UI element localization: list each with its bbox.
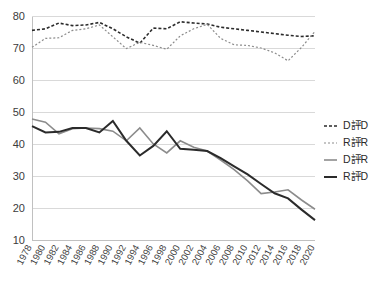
legend-label: D評R	[343, 153, 369, 165]
legend-label: R評D	[343, 170, 369, 182]
legend-label: D評D	[343, 119, 369, 131]
y-tick-label: 60	[13, 74, 25, 86]
line-chart: 1020304050607080 19781980198219841986198…	[0, 0, 386, 285]
legend-label: R評R	[343, 136, 369, 148]
y-tick-label: 50	[13, 106, 25, 118]
y-tick-label: 20	[13, 202, 25, 214]
chart-container: 1020304050607080 19781980198219841986198…	[0, 0, 386, 285]
y-tick-label: 30	[13, 170, 25, 182]
y-tick-label: 40	[13, 138, 25, 150]
y-tick-label: 70	[13, 42, 25, 54]
y-tick-label: 80	[13, 10, 25, 22]
